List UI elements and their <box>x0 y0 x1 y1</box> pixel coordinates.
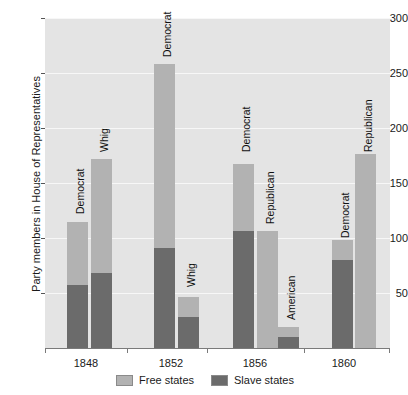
x-tick-label-1852: 1852 <box>141 357 201 369</box>
bar-segment-slave <box>154 248 175 348</box>
bar-chart: Party members in House of Representative… <box>0 0 408 395</box>
bar-segment-free <box>67 222 88 286</box>
x-axis-line <box>45 348 390 349</box>
x-tick-mark-end <box>389 348 390 353</box>
bar-label-1852-whig: Whig <box>185 263 197 287</box>
bar-segment-slave <box>91 273 112 348</box>
gridline-200 <box>45 128 390 129</box>
bar-label-1852-democrat: Democrat <box>161 11 173 57</box>
bar-segment-slave <box>67 285 88 348</box>
gridline-300 <box>45 18 390 19</box>
bar-label-1860-democrat: Democrat <box>339 192 351 238</box>
gridline-250 <box>45 73 390 74</box>
legend: Free states Slave states <box>45 374 390 390</box>
bar-label-1860-republican: Republican <box>362 99 374 152</box>
bar-1856-republican <box>257 231 278 348</box>
bar-segment-free <box>332 240 353 260</box>
x-tick-mark-2 <box>207 348 208 353</box>
bar-1848-whig <box>91 159 112 348</box>
bar-label-1856-democrat: Democrat <box>240 106 252 152</box>
x-tick-label-1856: 1856 <box>225 357 285 369</box>
bar-1860-democrat <box>332 240 353 348</box>
bar-segment-free <box>91 159 112 273</box>
bar-label-1856-republican: Republican <box>264 171 276 224</box>
bar-segment-slave <box>278 337 299 348</box>
legend-item-slave-states: Slave states <box>211 374 294 386</box>
x-tick-label-1860: 1860 <box>314 357 374 369</box>
bar-segment-free <box>355 154 376 348</box>
bar-segment-free <box>154 64 175 248</box>
y-axis-title: Party members in House of Representative… <box>30 44 42 324</box>
bar-segment-free <box>278 327 299 337</box>
x-tick-label-1848: 1848 <box>56 357 116 369</box>
bar-segment-slave <box>178 317 199 348</box>
x-tick-mark-start <box>45 348 46 353</box>
bar-segment-free <box>257 231 278 348</box>
legend-label-free-states: Free states <box>139 374 194 386</box>
x-tick-mark-1 <box>127 348 128 353</box>
bar-label-1856-american: American <box>285 276 297 320</box>
bar-1852-whig <box>178 297 199 348</box>
legend-swatch-free-states <box>116 375 133 386</box>
bar-segment-slave <box>233 231 254 348</box>
bar-1848-democrat <box>67 222 88 349</box>
legend-swatch-slave-states <box>211 375 228 386</box>
bar-1856-democrat <box>233 164 254 348</box>
bar-label-1848-democrat: Democrat <box>74 168 86 214</box>
legend-item-free-states: Free states <box>116 374 194 386</box>
bar-segment-free <box>233 164 254 231</box>
bar-1856-american <box>278 327 299 348</box>
legend-label-slave-states: Slave states <box>234 374 294 386</box>
bar-label-1848-whig: Whig <box>98 128 110 152</box>
bar-1860-republican <box>355 154 376 348</box>
plot-area <box>45 18 390 348</box>
x-tick-mark-3 <box>304 348 305 353</box>
bar-segment-slave <box>332 260 353 348</box>
bar-1852-democrat <box>154 64 175 348</box>
bar-segment-free <box>178 297 199 317</box>
